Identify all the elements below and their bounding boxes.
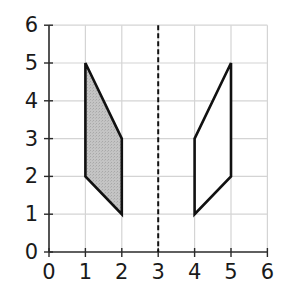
x-tick-label: 0 (42, 260, 55, 284)
x-tick-label: 4 (188, 260, 201, 284)
coordinate-grid: 01234560123456 (0, 0, 289, 296)
x-tick-label: 5 (224, 260, 237, 284)
y-tick-label: 3 (25, 127, 38, 151)
y-tick-label: 6 (25, 13, 38, 37)
y-tick-label: 2 (25, 164, 38, 188)
reflection-shape (195, 63, 231, 214)
axes (44, 25, 267, 257)
original-shape (85, 63, 121, 214)
reflection-diagram: 01234560123456 (0, 0, 289, 296)
tick-labels: 01234560123456 (25, 13, 274, 284)
y-tick-label: 5 (25, 51, 38, 75)
y-tick-label: 4 (25, 89, 38, 113)
x-tick-label: 3 (152, 260, 165, 284)
y-tick-label: 1 (25, 202, 38, 226)
x-tick-label: 2 (115, 260, 128, 284)
x-tick-label: 6 (261, 260, 274, 284)
y-tick-label: 0 (25, 240, 38, 264)
x-tick-label: 1 (79, 260, 92, 284)
